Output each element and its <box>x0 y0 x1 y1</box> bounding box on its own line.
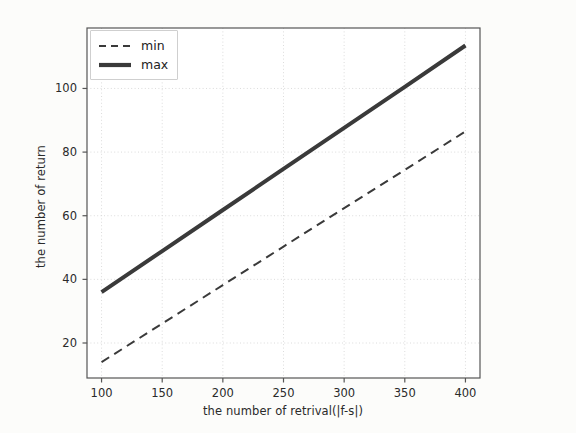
y-tick-label: 100 <box>0 81 77 95</box>
x-tick-label: 400 <box>454 386 476 400</box>
legend-label-max: max <box>141 57 168 72</box>
y-tick-label: 80 <box>0 145 77 159</box>
y-tick-label: 40 <box>0 272 77 286</box>
figure-canvas: the number of return the number of retri… <box>0 0 576 433</box>
x-tick-label: 100 <box>91 386 113 400</box>
x-tick-label: 300 <box>333 386 355 400</box>
legend-item-max: max <box>98 55 168 74</box>
plot-background <box>87 28 480 378</box>
x-tick-label: 350 <box>394 386 416 400</box>
y-tick-label: 60 <box>0 209 77 223</box>
legend-label-min: min <box>141 38 165 53</box>
legend-swatch-min-dashed-line <box>98 39 132 53</box>
x-tick-label: 250 <box>273 386 295 400</box>
legend-swatch-max-solid-line <box>98 58 132 72</box>
chart-legend: min max <box>90 30 178 80</box>
x-tick-label: 150 <box>151 386 173 400</box>
plot-area <box>0 0 576 433</box>
legend-item-min: min <box>98 36 168 55</box>
y-tick-label: 20 <box>0 336 77 350</box>
x-tick-label: 200 <box>212 386 234 400</box>
